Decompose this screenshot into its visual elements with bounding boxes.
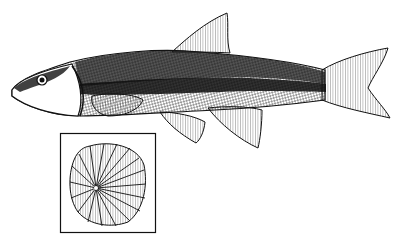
pupil	[40, 78, 45, 83]
dorsal-fin	[172, 13, 230, 53]
scale-detail	[70, 144, 146, 226]
anal-fin	[208, 107, 262, 148]
fish-illustration	[0, 0, 399, 239]
pelvic-fin	[160, 112, 205, 143]
tail-fin	[322, 48, 390, 118]
